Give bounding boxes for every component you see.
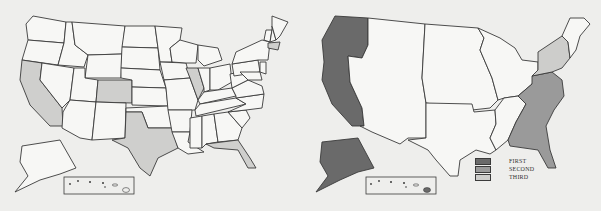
state-iowa [160,62,190,80]
legend-swatch [475,174,491,181]
state-massachusetts [268,42,280,50]
hawaii-inset-box [64,177,134,194]
hawaii-islands [370,180,430,192]
state-wyoming [85,54,122,78]
region-mid-atlantic [532,36,570,76]
state-kansas [132,87,168,106]
map-legend: FIRST SECOND THIRD [475,157,534,181]
us-regions-map [300,0,600,211]
us-states-map [0,0,300,211]
state-alaska [15,140,76,192]
state-arizona [62,100,96,140]
state-washington [26,16,66,43]
legend-label: SECOND [509,166,534,172]
state-michigan [198,45,222,66]
state-ohio [210,64,232,90]
legend-item-second: SECOND [475,165,534,173]
state-new-mexico [92,102,126,140]
state-arkansas [168,110,192,132]
legend-label: FIRST [509,158,526,164]
hawaii-islands [69,180,129,192]
legend-swatch [475,166,491,173]
us-regions-svg [300,0,600,211]
state-florida [206,140,256,168]
region-alaska [316,138,374,192]
state-new-jersey [260,62,266,74]
state-colorado [96,80,132,103]
legend-item-third: THIRD [475,173,534,181]
legend-label: THIRD [509,174,528,180]
state-new-york [232,40,270,64]
state-north-dakota [122,26,158,48]
state-south-dakota [121,47,160,70]
legend-item-first: FIRST [475,157,534,165]
us-states-svg [0,0,300,211]
legend-swatch [475,158,491,165]
state-mississippi [190,116,202,148]
